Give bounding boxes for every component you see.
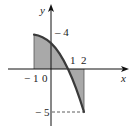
tick-label-y-neg5: − 5 [35, 106, 50, 118]
tick-label-x-0: 0 [42, 72, 48, 84]
tick-label-y-4: – 4 [54, 26, 69, 38]
function-graph: y x – 4 − 5 − 1 0 1 2 [0, 0, 138, 126]
tick-label-x-2: 2 [81, 54, 87, 66]
x-axis-label: x [120, 72, 126, 84]
tick-label-x-neg1: − 1 [24, 72, 38, 84]
tick-label-x-1: 1 [70, 54, 76, 66]
y-axis-label: y [39, 4, 45, 16]
